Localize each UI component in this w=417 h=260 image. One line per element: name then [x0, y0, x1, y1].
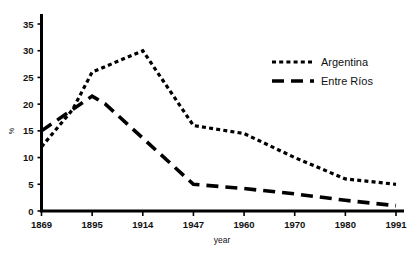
y-axis-tick-label: 10	[23, 152, 34, 163]
x-axis-title: year	[214, 235, 231, 245]
x-axis-ticks: 18691895191419471960197019801991	[31, 211, 407, 230]
y-axis-tick-label: 20	[23, 99, 34, 110]
x-axis-tick-label: 1991	[385, 219, 407, 230]
series-line-argentina	[42, 51, 397, 185]
x-axis-tick-label: 1947	[183, 219, 204, 230]
y-axis-tick-label: 15	[23, 125, 34, 136]
x-axis-tick-label: 1960	[234, 219, 255, 230]
x-axis-tick-label: 1895	[82, 219, 104, 230]
axis-group	[40, 14, 404, 212]
chart-container: 05101520253035 1869189519141947196019701…	[0, 0, 417, 260]
series-line-entre-ríos	[42, 96, 397, 206]
y-axis-tick-label: 5	[28, 179, 34, 190]
series-layer	[42, 51, 397, 206]
y-axis-tick-label: 30	[23, 45, 34, 56]
legend-label: Entre Ríos	[321, 75, 373, 87]
line-chart-plot: 05101520253035 1869189519141947196019701…	[0, 0, 417, 260]
x-axis-tick-label: 1869	[31, 219, 52, 230]
y-axis-ticks: 05101520253035	[23, 19, 42, 217]
y-axis-title: %	[8, 128, 15, 134]
legend-label: Argentina	[321, 56, 369, 68]
x-axis-tick-label: 1970	[284, 219, 305, 230]
y-axis-tick-label: 25	[23, 72, 34, 83]
y-axis-tick-label: 35	[23, 19, 34, 30]
chart-legend: ArgentinaEntre Ríos	[272, 56, 373, 87]
y-axis-tick-label: 0	[28, 206, 33, 217]
x-axis-tick-label: 1914	[132, 219, 154, 230]
x-axis-tick-label: 1980	[335, 219, 356, 230]
